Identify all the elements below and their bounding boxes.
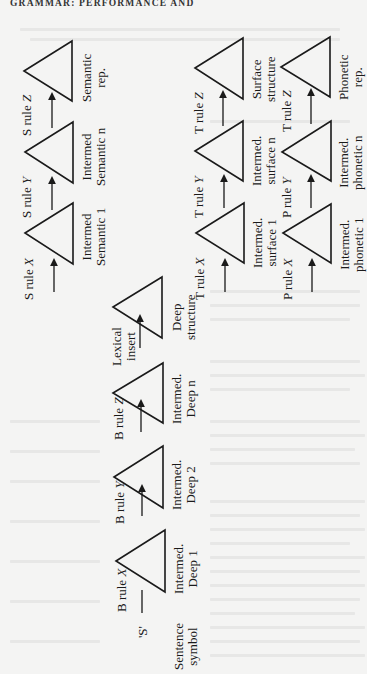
node-label-semantic-rep: Semanticrep. xyxy=(80,54,108,102)
node-label-intermed-deep-2: Intermed.Deep 2 xyxy=(170,460,198,510)
triangle-phonetic-rep xyxy=(281,37,330,97)
triangle-semantic-rep xyxy=(24,41,72,101)
rule-label: B rule Z xyxy=(112,397,126,440)
node-label-sentence-symbol: Sentencesymbol xyxy=(172,623,200,670)
rule-label: B rule Y xyxy=(113,481,127,524)
node-label-intermed-deep-1: Intermed.Deep 1 xyxy=(172,544,200,594)
triangle-surface-structure xyxy=(195,38,243,99)
node-label-intermed-semantic-n: IntermedSemantic n xyxy=(80,128,108,186)
lexical-insert-label: Lexicalinsert xyxy=(110,327,138,366)
rule-label: P rule X xyxy=(281,259,295,300)
node-label-intermed-surface-n: Intermed.surface n xyxy=(250,136,278,186)
rule-label: T rule Y xyxy=(192,176,206,218)
rule-label: S rule X xyxy=(22,258,36,300)
rule-label: T rule X xyxy=(193,258,207,300)
node-label-phonetic-rep: Phoneticrep. xyxy=(337,55,365,101)
node-label-surface-structure: Surfacestructure xyxy=(250,57,278,102)
rule-label: S rule Z xyxy=(20,95,34,136)
node-label-intermed-phonetic-n: Intermed.phonetic n xyxy=(337,135,365,190)
node-label-intermed-surface-1: Intermed.surface 1 xyxy=(251,218,279,268)
node-label-intermed-semantic-1: IntermedSemantic 1 xyxy=(80,208,108,266)
node-label-intermed-deep-n: Intermed.Deep n xyxy=(170,374,198,424)
rule-label: B rule X xyxy=(115,569,129,612)
rule-label: P rule Y xyxy=(280,177,294,218)
rule-label: T rule Z xyxy=(280,90,294,132)
node-label-deep-structure: Deepstructure xyxy=(170,295,198,340)
start-symbol: 'S' xyxy=(136,626,150,638)
rule-label: T rule Z xyxy=(192,92,206,134)
node-label-intermed-phonetic-1: Intermed.phonetic 1 xyxy=(338,217,366,272)
book-page: GRAMMAR: PERFORMANCE AND xyxy=(0,0,367,674)
rule-label: S rule Y xyxy=(20,177,34,218)
